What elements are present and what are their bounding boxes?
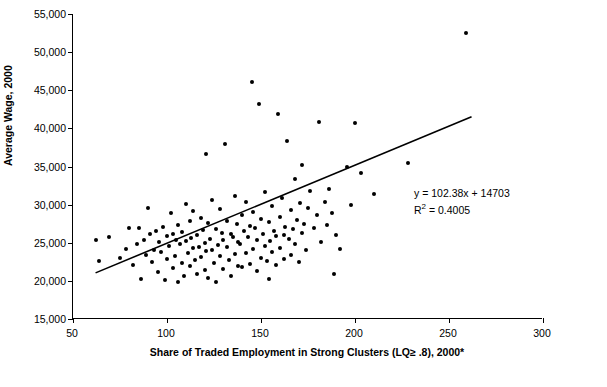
data-point	[263, 190, 267, 194]
y-axis-tick	[68, 14, 73, 15]
data-point	[274, 263, 278, 267]
data-point	[180, 261, 184, 265]
scatter-chart: Average Wage, 2000 Share of Traded Emplo…	[0, 0, 607, 387]
data-point	[189, 236, 193, 240]
data-point	[287, 237, 291, 241]
data-point	[325, 223, 329, 227]
data-point	[152, 248, 156, 252]
x-axis-tick-label: 200	[345, 327, 363, 339]
data-point	[208, 237, 212, 241]
data-point	[191, 209, 195, 213]
y-axis-tick-label: 35,000	[26, 161, 66, 173]
data-point	[250, 80, 254, 84]
data-point	[295, 218, 299, 222]
data-point	[319, 240, 323, 244]
regression-equation: y = 102.38x + 14703	[414, 186, 510, 200]
data-point	[176, 223, 180, 227]
x-axis-tick-label: 250	[439, 327, 457, 339]
data-point	[242, 229, 246, 233]
r-squared: R2 = 0.4005	[414, 200, 510, 217]
data-point	[323, 200, 327, 204]
data-point	[300, 231, 304, 235]
data-point	[244, 200, 248, 204]
data-point	[182, 274, 186, 278]
data-point	[302, 222, 306, 226]
data-point	[349, 203, 353, 207]
data-point	[297, 260, 301, 264]
data-point	[210, 198, 214, 202]
data-point	[193, 258, 197, 262]
data-point	[150, 260, 154, 264]
data-point	[165, 257, 169, 261]
data-point	[289, 208, 293, 212]
data-point	[231, 235, 235, 239]
y-axis-tick-label: 15,000	[26, 313, 66, 325]
data-point	[225, 219, 229, 223]
data-point	[214, 280, 218, 284]
data-point	[327, 187, 331, 191]
data-point	[214, 227, 218, 231]
data-point	[212, 261, 216, 265]
y-axis-title: Average Wage, 2000	[2, 65, 14, 166]
data-point	[261, 232, 265, 236]
data-point	[270, 204, 274, 208]
data-point	[195, 233, 199, 237]
data-point	[199, 216, 203, 220]
data-point	[282, 233, 286, 237]
x-axis-tick-label: 50	[66, 327, 78, 339]
data-point	[334, 233, 338, 237]
y-axis-tick	[68, 128, 73, 129]
y-axis-tick	[68, 319, 73, 320]
regression-annotation: y = 102.38x + 14703 R2 = 0.4005	[414, 186, 510, 217]
data-point	[135, 242, 139, 246]
y-axis-tick	[68, 167, 73, 168]
data-point	[278, 246, 282, 250]
r-squared-label: R	[414, 204, 422, 216]
data-point	[248, 224, 252, 228]
x-axis-tick-label: 100	[157, 327, 175, 339]
data-point	[223, 142, 227, 146]
plot-area	[72, 14, 542, 319]
data-point	[159, 250, 163, 254]
data-point	[97, 259, 101, 263]
data-point	[127, 226, 131, 230]
x-axis-title: Share of Traded Employment in Strong Clu…	[72, 346, 542, 358]
data-point	[176, 280, 180, 284]
data-point	[406, 161, 410, 165]
data-point	[248, 262, 252, 266]
data-point	[263, 244, 267, 248]
data-point	[293, 177, 297, 181]
data-point	[235, 222, 239, 226]
data-point	[188, 264, 192, 268]
data-point	[107, 235, 111, 239]
data-point	[306, 206, 310, 210]
data-point	[220, 231, 224, 235]
data-point	[267, 277, 271, 281]
data-point	[372, 192, 376, 196]
data-point	[144, 253, 148, 257]
x-axis-tick	[261, 318, 262, 323]
data-point	[204, 249, 208, 253]
data-point	[218, 207, 222, 211]
data-point	[244, 251, 248, 255]
data-point	[233, 194, 237, 198]
data-point	[240, 265, 244, 269]
y-axis-tick	[68, 243, 73, 244]
data-point	[131, 263, 135, 267]
y-axis-tick-label: 55,000	[26, 8, 66, 20]
data-point	[315, 213, 319, 217]
data-point	[206, 276, 210, 280]
data-point	[268, 239, 272, 243]
x-axis-tick	[73, 318, 74, 323]
data-point	[178, 242, 182, 246]
data-point	[139, 277, 143, 281]
data-point	[161, 225, 165, 229]
data-point	[118, 256, 122, 260]
data-point	[298, 201, 302, 205]
y-axis-tick-label: 25,000	[26, 237, 66, 249]
data-point	[180, 230, 184, 234]
y-axis-tick-label: 40,000	[26, 122, 66, 134]
data-point	[229, 274, 233, 278]
data-point	[332, 272, 336, 276]
data-point	[257, 102, 261, 106]
